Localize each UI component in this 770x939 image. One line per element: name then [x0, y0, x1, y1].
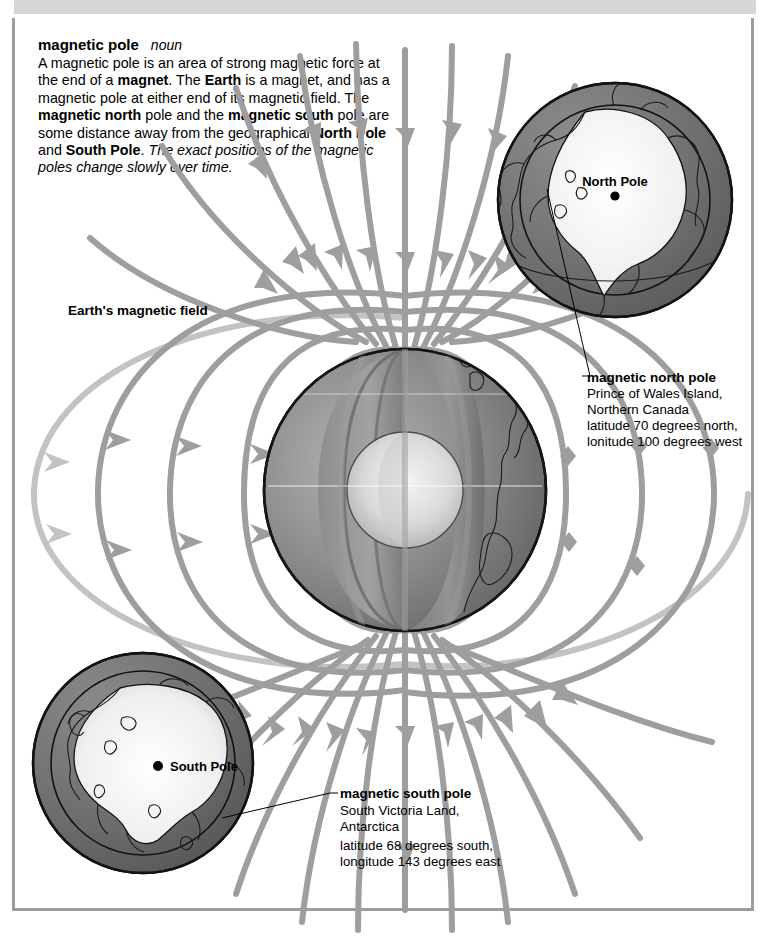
svg-text:South Victoria Land,: South Victoria Land, — [340, 803, 460, 818]
field-label: Earth's magnetic field — [68, 303, 208, 318]
svg-text:magnetic south pole: magnetic south pole — [340, 786, 472, 801]
svg-text:latitude 68 degrees south,: latitude 68 degrees south, — [340, 838, 493, 853]
callout-magnetic-north-pole: magnetic north pole Prince of Wales Isla… — [587, 370, 743, 449]
svg-text:latitude 70 degrees north,: latitude 70 degrees north, — [587, 418, 738, 433]
svg-text:Northern Canada: Northern Canada — [587, 402, 690, 417]
svg-text:Antarctica: Antarctica — [340, 819, 400, 834]
south-pole-inset-label: South Pole — [170, 759, 238, 774]
dictionary-page: magnetic polenoun A magnetic pole is an … — [0, 0, 770, 939]
south-pole-inset: South Pole — [33, 653, 253, 873]
svg-text:longitude 143 degrees east: longitude 143 degrees east — [340, 854, 501, 869]
svg-text:magnetic north pole: magnetic north pole — [587, 370, 717, 385]
earth-magnetic-field-diagram: North Pole — [0, 0, 770, 939]
svg-text:lonitude 100 degrees west: lonitude 100 degrees west — [587, 434, 743, 449]
north-pole-inset: North Pole — [498, 82, 732, 322]
svg-text:Prince of Wales Island,: Prince of Wales Island, — [587, 386, 723, 401]
callout-magnetic-south-pole: magnetic south pole South Victoria Land,… — [340, 786, 501, 869]
north-pole-inset-label: North Pole — [582, 174, 648, 189]
